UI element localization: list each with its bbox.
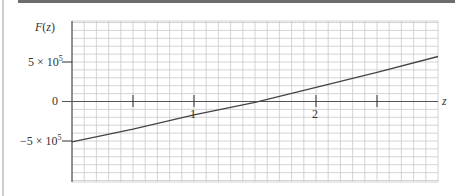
y-tick-label-neg: −5 × 105 bbox=[20, 133, 62, 148]
x-axis-label: z bbox=[441, 94, 447, 108]
x-tick-label-2: 2 bbox=[312, 107, 318, 121]
axes bbox=[62, 21, 438, 182]
y-axis-label: F(z) bbox=[34, 20, 55, 34]
y-tick-label-zero: 0 bbox=[52, 94, 58, 108]
y-tick-label-pos: 5 × 105 bbox=[28, 54, 63, 69]
x-tick-label-1: 1 bbox=[190, 107, 196, 121]
chart: F(z) 5 × 105 0 −5 × 105 1 2 z bbox=[0, 0, 468, 196]
